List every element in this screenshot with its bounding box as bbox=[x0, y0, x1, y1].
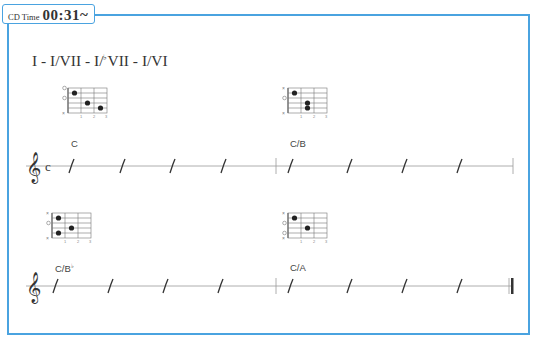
chord-diagram-c: × 123 bbox=[62, 86, 108, 119]
svg-text:×: × bbox=[46, 235, 49, 241]
cd-time-value: 00:31~ bbox=[42, 5, 88, 25]
svg-text:×: × bbox=[282, 210, 285, 216]
svg-text:1: 1 bbox=[64, 239, 67, 244]
svg-text:×: × bbox=[282, 235, 285, 241]
treble-clef-icon: 𝄞 bbox=[26, 152, 41, 184]
svg-text:2: 2 bbox=[313, 239, 316, 244]
staff-system-2 bbox=[26, 278, 513, 294]
treble-clef-icon: 𝄞 bbox=[26, 272, 41, 304]
svg-text:3: 3 bbox=[89, 239, 92, 244]
chord-diagram-c-bflat: × × 123 bbox=[46, 210, 92, 244]
notation-canvas: × 123 × × 123 × × 123 × × bbox=[0, 0, 533, 339]
staff-system-1 bbox=[26, 158, 513, 174]
cd-time-label: CD Time bbox=[8, 7, 39, 27]
svg-text:×: × bbox=[46, 210, 49, 216]
svg-text:1: 1 bbox=[300, 114, 303, 119]
svg-text:×: × bbox=[62, 110, 65, 116]
svg-text:2: 2 bbox=[77, 239, 80, 244]
svg-text:1: 1 bbox=[300, 239, 303, 244]
svg-text:×: × bbox=[282, 110, 285, 116]
chord-diagram-c-b: × × 123 bbox=[282, 85, 328, 119]
svg-text:×: × bbox=[282, 85, 285, 91]
cd-time-badge: CD Time 00:31~ bbox=[2, 4, 95, 24]
chord-diagram-c-a: × × 123 bbox=[282, 210, 328, 244]
final-barline bbox=[511, 278, 514, 294]
svg-text:2: 2 bbox=[313, 114, 316, 119]
svg-text:3: 3 bbox=[105, 114, 108, 119]
svg-text:3: 3 bbox=[325, 114, 328, 119]
svg-text:2: 2 bbox=[93, 114, 96, 119]
common-time-icon: c bbox=[45, 159, 51, 174]
svg-text:3: 3 bbox=[325, 239, 328, 244]
svg-text:1: 1 bbox=[80, 114, 83, 119]
